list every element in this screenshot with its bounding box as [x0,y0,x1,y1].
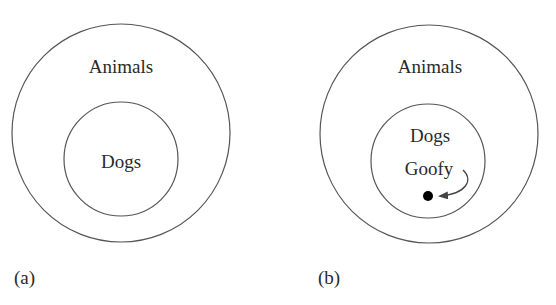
animals-label: Animals [89,56,153,77]
goofy-label: Goofy [405,158,454,179]
panel-a: Animals Dogs (a) [12,24,230,289]
dogs-label: Dogs [101,151,141,172]
panel-b-caption: (b) [318,267,340,289]
panel-a-caption: (a) [14,267,35,289]
panel-b: Animals Dogs Goofy (b) [318,25,538,289]
goofy-element-dot [423,191,433,201]
dogs-label: Dogs [410,125,450,146]
animals-label: Animals [398,56,462,77]
venn-diagram: Animals Dogs (a) Animals Dogs Goofy (b) [0,0,556,305]
